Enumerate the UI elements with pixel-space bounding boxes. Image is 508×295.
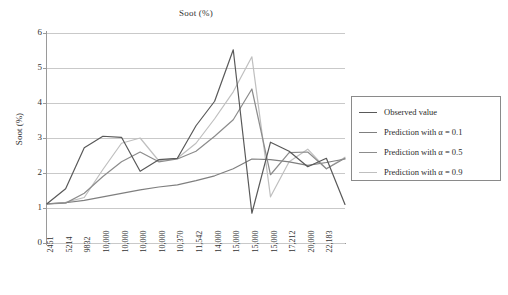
- y-tick-label: 4: [20, 97, 42, 107]
- x-tick-label: 9832: [83, 237, 92, 253]
- x-tick-label: 10,000: [139, 231, 148, 253]
- legend-line-swatch: [359, 172, 377, 173]
- y-tick-label: 0: [20, 237, 42, 247]
- chart-title: Soot (%): [47, 8, 345, 18]
- y-tick-label: 1: [20, 202, 42, 212]
- legend-item: Prediction with α = 0.5: [352, 142, 500, 162]
- legend-item: Prediction with α = 0.1: [352, 122, 500, 142]
- y-tick-label: 6: [20, 27, 42, 37]
- legend-line-swatch: [359, 132, 377, 133]
- chart-figure: Soot (%) Soot (%) 0123456 24515214983210…: [0, 0, 508, 295]
- legend-item-label: Prediction with α = 0.9: [384, 167, 462, 177]
- series-line: [47, 89, 345, 204]
- series-line: [47, 50, 345, 213]
- series-lines: [47, 33, 345, 243]
- x-tick-label: 17,212: [288, 231, 297, 253]
- legend-item: Prediction with α = 0.9: [352, 162, 500, 182]
- legend-item-label: Observed value: [384, 107, 437, 117]
- x-tick-label: 10,000: [157, 231, 166, 253]
- x-tick-label: 15,000: [269, 231, 278, 253]
- y-tick-label: 2: [20, 167, 42, 177]
- x-tick-label: 15,000: [232, 231, 241, 253]
- plot-area: [47, 33, 345, 243]
- x-tick-label: 10,370: [176, 231, 185, 253]
- legend-item-label: Prediction with α = 0.1: [384, 127, 462, 137]
- legend-line-swatch: [359, 112, 377, 113]
- x-tick-label: 11,542: [195, 231, 204, 253]
- legend-item: Observed value: [352, 102, 500, 122]
- x-tick-label: 5214: [64, 237, 73, 253]
- x-tick-label: 10,000: [120, 231, 129, 253]
- legend-item-label: Prediction with α = 0.5: [384, 147, 462, 157]
- legend-line-swatch: [359, 152, 377, 153]
- legend: Observed valuePrediction with α = 0.1Pre…: [351, 96, 501, 181]
- series-line: [47, 57, 345, 204]
- x-tick-label: 2451: [46, 237, 55, 253]
- x-tick-label: 22,183: [325, 231, 334, 253]
- y-tick-label: 3: [20, 132, 42, 142]
- series-line: [47, 159, 345, 204]
- y-tick-label: 5: [20, 62, 42, 72]
- x-tick-label: 10,000: [101, 231, 110, 253]
- x-tick-label: 14,000: [213, 231, 222, 253]
- x-tick-label: 20,000: [306, 231, 315, 253]
- x-tick-label: 15,000: [250, 231, 259, 253]
